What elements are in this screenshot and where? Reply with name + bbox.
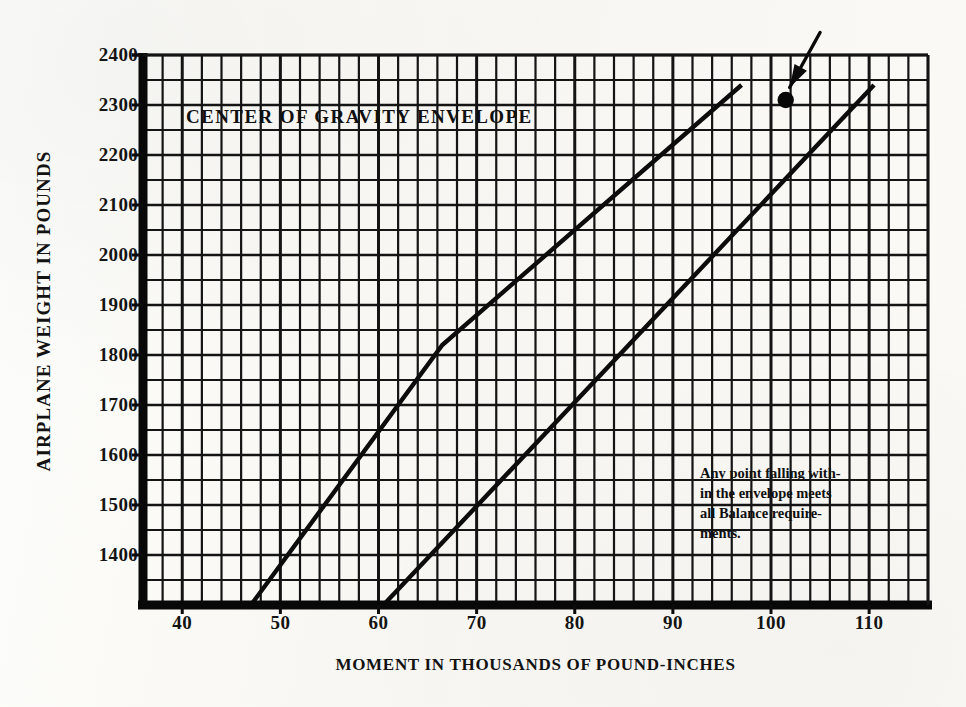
loaded-airplane-point [778, 92, 794, 108]
note-line: in the envelope meets [700, 483, 896, 503]
note-line: Any point falling with- [700, 463, 896, 483]
note-line: all Balance require- [700, 503, 896, 523]
figure-root: AIRPLANE WEIGHT IN POUNDS MOMENT IN THOU… [0, 0, 966, 707]
data-point-layer [778, 92, 794, 108]
balance-requirement-note: Any point falling with-in the envelope m… [700, 463, 896, 543]
note-line: ments. [700, 523, 896, 543]
chart-title: CENTER OF GRAVITY ENVELOPE [186, 106, 533, 128]
